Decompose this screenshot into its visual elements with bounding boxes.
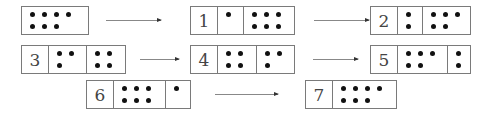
dot-row <box>406 63 447 68</box>
dot-icon <box>146 98 151 103</box>
dot-icon <box>238 63 243 68</box>
dot-icon <box>430 51 435 56</box>
dot-icon <box>418 51 423 56</box>
dot-icon <box>30 12 35 17</box>
arrow-right-icon <box>106 20 161 21</box>
dot-icon <box>377 86 382 91</box>
dot-row <box>174 98 190 103</box>
dot-icon <box>406 24 411 29</box>
dot-icon <box>252 12 257 17</box>
dot-row <box>30 24 88 29</box>
arrow-right-icon <box>313 59 358 60</box>
dot-icon <box>226 63 231 68</box>
dot-group <box>217 46 256 73</box>
arrow-right-icon <box>314 20 369 21</box>
dot-row <box>95 51 125 56</box>
dot-icon <box>264 24 269 29</box>
dot-group <box>22 7 88 34</box>
dot-group <box>165 81 190 108</box>
dot-row <box>341 98 396 103</box>
dot-icon <box>134 98 139 103</box>
dot-icon <box>341 98 346 103</box>
dot-icon <box>431 12 436 17</box>
dot-icon <box>443 24 448 29</box>
dot-icon <box>276 24 281 29</box>
domino-box-3: 3 <box>21 45 126 74</box>
dot-row <box>226 51 256 56</box>
domino-box-5: 5 <box>370 45 471 74</box>
dot-icon <box>30 24 35 29</box>
dot-icon <box>406 12 411 17</box>
dot-group <box>332 81 396 108</box>
dot-row <box>30 12 88 17</box>
dot-icon <box>276 12 281 17</box>
dot-row <box>406 12 422 17</box>
dot-icon <box>57 51 62 56</box>
dot-row <box>431 12 470 17</box>
dot-icon <box>443 12 448 17</box>
dot-group <box>48 46 86 73</box>
dot-row <box>57 51 86 56</box>
dot-icon <box>277 51 282 56</box>
dot-icon <box>122 98 127 103</box>
dot-icon <box>107 51 112 56</box>
dot-icon <box>95 51 100 56</box>
dot-icon <box>146 86 151 91</box>
dot-icon <box>134 86 139 91</box>
dot-icon <box>107 63 112 68</box>
dot-row <box>226 63 256 68</box>
dot-icon <box>54 24 59 29</box>
step-number-label: 7 <box>306 81 332 108</box>
dot-icon <box>42 24 47 29</box>
dot-group <box>397 46 447 73</box>
dot-group <box>422 7 470 34</box>
domino-box-start <box>21 6 89 35</box>
dot-row <box>122 86 165 91</box>
dot-group <box>256 46 294 73</box>
dot-row <box>431 24 470 29</box>
arrow-right-icon <box>140 59 179 60</box>
dot-row <box>174 86 190 91</box>
dot-icon <box>95 63 100 68</box>
dot-row <box>406 24 422 29</box>
domino-box-6: 6 <box>86 80 191 109</box>
dot-icon <box>431 24 436 29</box>
dot-icon <box>456 51 461 56</box>
dot-group <box>113 81 165 108</box>
dot-row <box>252 24 294 29</box>
dot-icon <box>264 12 269 17</box>
dot-row <box>122 98 165 103</box>
dot-icon <box>418 63 423 68</box>
dot-row <box>341 86 396 91</box>
dot-icon <box>365 98 370 103</box>
step-number-label: 1 <box>191 7 217 34</box>
dot-row <box>265 51 294 56</box>
step-number-label: 3 <box>22 46 48 73</box>
dot-icon <box>174 86 179 91</box>
dot-row <box>252 12 294 17</box>
dot-icon <box>265 63 270 68</box>
dot-row <box>95 63 125 68</box>
dot-icon <box>456 63 461 68</box>
domino-box-4: 4 <box>190 45 295 74</box>
dot-icon <box>122 86 127 91</box>
dot-group <box>397 7 422 34</box>
dot-group <box>243 7 294 34</box>
dot-icon <box>406 51 411 56</box>
dot-row <box>406 51 447 56</box>
step-number-label: 6 <box>87 81 113 108</box>
dot-row <box>456 63 470 68</box>
step-number-label: 2 <box>371 7 397 34</box>
dot-icon <box>226 51 231 56</box>
dot-icon <box>365 86 370 91</box>
dot-icon <box>238 51 243 56</box>
dot-row <box>226 12 243 17</box>
dot-row <box>456 51 470 56</box>
dot-group <box>447 46 470 73</box>
dot-group <box>86 46 125 73</box>
dot-row <box>226 24 243 29</box>
dot-icon <box>42 12 47 17</box>
domino-box-7: 7 <box>305 80 397 109</box>
dot-icon <box>265 51 270 56</box>
dot-icon <box>353 98 358 103</box>
